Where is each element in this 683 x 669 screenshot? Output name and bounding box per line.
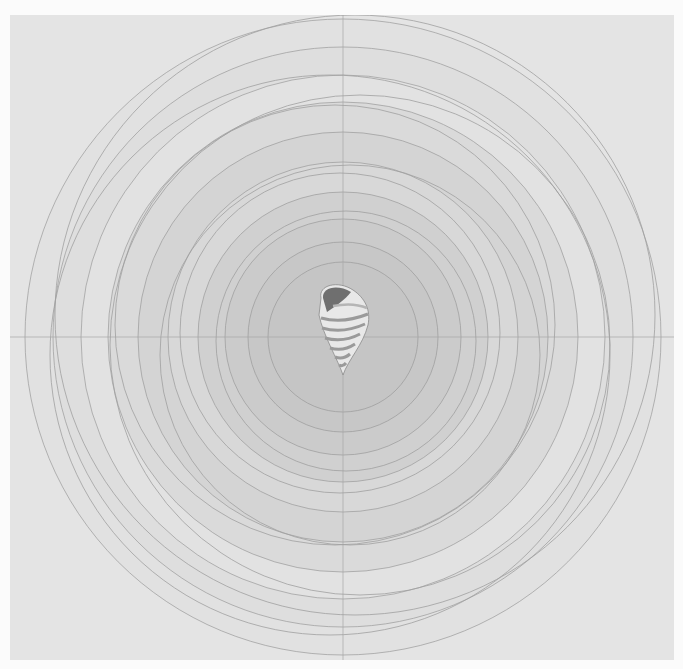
- artwork-canvas: [10, 15, 674, 660]
- concentric-circles-drawing: [10, 15, 674, 660]
